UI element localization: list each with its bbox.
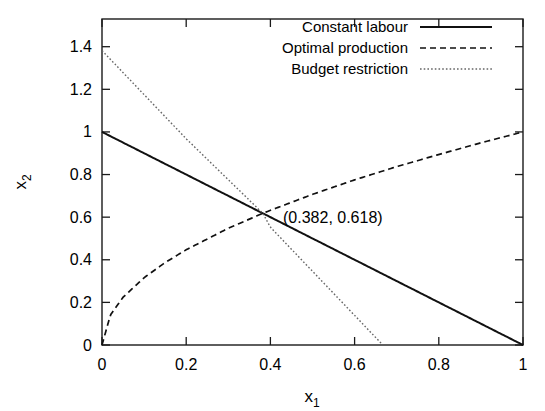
y-tick-label: 1 [83, 123, 92, 140]
y-tick-label: 0.8 [70, 166, 92, 183]
series-budget-restriction [102, 51, 383, 345]
legend-label-optimal-production: Optimal production [282, 39, 408, 56]
chart-container: 00.20.40.60.811.21.4 00.20.40.60.81 (0.3… [0, 0, 545, 411]
x-tick-label: 0.2 [175, 356, 197, 373]
x-tick-label: 0.6 [343, 356, 365, 373]
x-tick-label: 0.8 [428, 356, 450, 373]
y-tick-label: 1.4 [70, 38, 92, 55]
y-axis-tick-labels: 00.20.40.60.811.21.4 [70, 38, 92, 353]
x-axis-label-subscript: 1 [313, 396, 320, 410]
y-tick-label: 0.6 [70, 209, 92, 226]
y-tick-label: 0.2 [70, 294, 92, 311]
economics-line-chart: 00.20.40.60.811.21.4 00.20.40.60.81 (0.3… [0, 0, 545, 411]
series-constant-labour [102, 132, 523, 345]
x-axis-label: x1 [304, 387, 320, 410]
x-tick-label: 0.4 [259, 356, 281, 373]
y-tick-label: 0 [83, 337, 92, 354]
y-tick-label: 0.4 [70, 251, 92, 268]
x-tick-label: 1 [519, 356, 528, 373]
y-axis-label-subscript: 2 [20, 174, 34, 181]
intersection-annotation: (0.382, 0.618) [283, 209, 383, 226]
y-axis-label: x2 [11, 174, 34, 190]
y-tick-label: 1.2 [70, 81, 92, 98]
legend: Constant labour Optimal production Budge… [282, 18, 492, 77]
legend-label-constant-labour: Constant labour [302, 18, 408, 35]
x-axis-tick-labels: 00.20.40.60.81 [98, 356, 528, 373]
y-axis-ticks [102, 47, 523, 345]
legend-label-budget-restriction: Budget restriction [291, 60, 408, 77]
x-tick-label: 0 [98, 356, 107, 373]
